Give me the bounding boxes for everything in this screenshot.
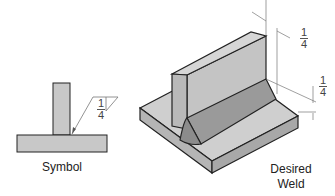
symbol-label: Symbol [36, 160, 88, 174]
vertical-leg-size: 1 4 [299, 27, 309, 50]
horizontal-leg-denominator: 4 [320, 86, 326, 98]
vertical-leg-denominator: 4 [301, 38, 307, 50]
horizontal-leg-size: 1 4 [318, 75, 328, 98]
isometric-weld [140, 0, 316, 173]
symbol-weld-size: 1 4 [96, 98, 106, 121]
desired-weld-label-line2: Weld [263, 177, 319, 191]
desired-weld-label-line1: Desired [263, 162, 319, 176]
horizontal-leg-numerator: 1 [320, 74, 326, 86]
vertical-leg-numerator: 1 [301, 26, 307, 38]
symbol-size-denominator: 4 [98, 109, 104, 121]
symbol-size-numerator: 1 [98, 97, 104, 109]
